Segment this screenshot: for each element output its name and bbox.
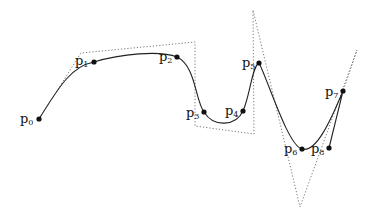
point-marker-p2 bbox=[174, 54, 179, 59]
point-label-p2: p2 bbox=[159, 50, 172, 65]
point-label-p5: p5 bbox=[242, 56, 255, 71]
point-marker-p3 bbox=[201, 109, 206, 114]
point-marker-p5 bbox=[256, 60, 261, 65]
point-marker-p8 bbox=[326, 145, 331, 150]
point-label-p7: p7 bbox=[325, 85, 338, 100]
point-label-p4: p4 bbox=[225, 104, 238, 119]
point-label-p3: p3 bbox=[186, 106, 199, 121]
point-marker-p1 bbox=[91, 59, 96, 64]
point-marker-p0 bbox=[36, 116, 41, 121]
point-label-p1: p1 bbox=[75, 54, 88, 69]
point-label-p6: p6 bbox=[284, 142, 297, 157]
point-marker-p4 bbox=[240, 108, 245, 113]
point-marker-p7 bbox=[340, 88, 345, 93]
point-marker-p6 bbox=[299, 146, 304, 151]
point-label-p0: p0 bbox=[20, 112, 33, 127]
point-label-p8: p8 bbox=[311, 142, 324, 157]
